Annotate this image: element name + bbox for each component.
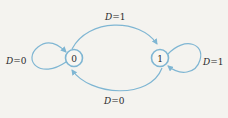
edge-1-to-0	[72, 68, 162, 91]
edge-1-to-1	[168, 44, 201, 73]
state-node-1: 1	[152, 50, 169, 67]
state-node-0: 0	[66, 50, 83, 67]
edge-label-1-to-1: D=1	[202, 57, 224, 67]
state-diagram: 0 1 D=1 D=0 D=1 D=0	[0, 0, 228, 118]
edge-label-1-to-0: D=0	[103, 96, 125, 106]
svg-text:0: 0	[71, 54, 77, 64]
edge-label-0-to-1: D=1	[104, 12, 126, 22]
edge-0-to-0	[32, 43, 66, 69]
edge-label-0-to-0: D=0	[5, 56, 27, 66]
edge-0-to-1	[72, 25, 157, 49]
svg-text:1: 1	[157, 54, 163, 64]
